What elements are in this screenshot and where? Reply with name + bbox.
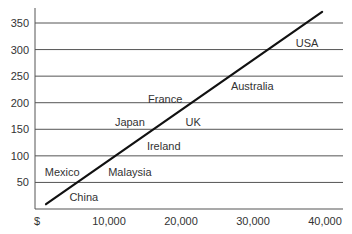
country-label: Malaysia [108,166,152,178]
x-tick-labels: $10,00020,00030,00040,000 [34,215,342,227]
country-label: China [69,191,99,203]
country-label: Japan [115,116,145,128]
y-tick-label: 100 [11,150,29,162]
country-label: USA [296,37,319,49]
y-tick-label: 250 [11,70,29,82]
y-tick-label: 50 [17,176,29,188]
y-tick-label: 300 [11,44,29,56]
plot-area: 50100150200250300350 $10,00020,00030,000… [0,0,352,234]
x-tick-label: $ [34,215,40,227]
x-tick-label: 10,000 [92,215,126,227]
chart: 50100150200250300350 $10,00020,00030,000… [0,0,352,234]
trend-line [46,12,322,204]
y-tick-label: 350 [11,17,29,29]
y-tick-labels: 50100150200250300350 [11,17,29,188]
x-tick-label: 40,000 [308,215,342,227]
y-tick-label: 150 [11,123,29,135]
country-label: Australia [231,80,275,92]
x-tick-label: 20,000 [164,215,198,227]
x-tick-label: 30,000 [236,215,270,227]
country-label: UK [186,116,202,128]
country-labels: USAAustraliaFranceJapanUKIrelandMexicoMa… [45,37,319,203]
y-tick-label: 200 [11,97,29,109]
country-label: Ireland [147,140,181,152]
country-label: Mexico [45,166,80,178]
country-label: France [148,93,182,105]
